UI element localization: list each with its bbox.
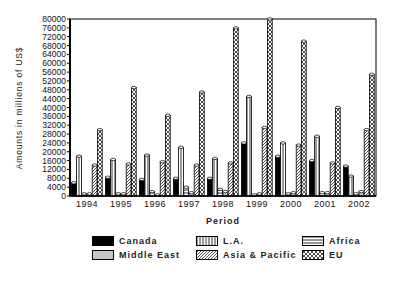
- y-tick-label: 16000: [42, 156, 66, 166]
- bar-asia-pacific-2002: [364, 130, 369, 196]
- legend-item-canada: Canada: [92, 236, 158, 246]
- bar-eu-2002: [369, 74, 374, 196]
- bar-asia-pacific-1994: [92, 165, 97, 196]
- swatch-diagonal-lines-icon: [196, 250, 218, 260]
- x-axis: 199419951996199719981999200020012002: [70, 196, 376, 209]
- y-tick-label: 44000: [42, 94, 66, 104]
- y-tick-label: 76000: [42, 23, 66, 33]
- bar-l-a--2000: [281, 143, 286, 196]
- legend-item-africa: Africa: [302, 236, 361, 246]
- y-tick-label: 80000: [42, 14, 66, 24]
- bar-l-a--2001: [315, 136, 320, 196]
- bar-canada-1996: [139, 179, 144, 196]
- y-tick-label: 32000: [42, 120, 66, 130]
- x-tick-label: 2001: [314, 199, 336, 209]
- x-tick-label: 1994: [76, 199, 98, 209]
- bar-asia-pacific-1997: [194, 165, 199, 196]
- y-tick-label: 60000: [42, 58, 66, 68]
- legend-label: Canada: [119, 236, 158, 246]
- y-tick-label: 36000: [42, 111, 66, 121]
- bar-l-a--1997: [179, 147, 184, 196]
- swatch-vertical-lines-icon: [196, 236, 218, 246]
- plot-area: [70, 18, 376, 196]
- bar-canada-1995: [105, 177, 110, 196]
- swatch-crosshatch-icon: [302, 250, 324, 260]
- bar-l-a--1994: [77, 156, 82, 196]
- bar-canada-1997: [173, 178, 178, 196]
- x-tick-label: 1999: [246, 199, 268, 209]
- bar-asia-pacific-1996: [160, 162, 165, 196]
- x-tick-label: 1995: [110, 199, 132, 209]
- bar-canada-2002: [343, 166, 348, 196]
- bar-asia-pacific-2000: [296, 145, 301, 196]
- y-tick-label: 4000: [47, 182, 66, 192]
- bar-l-a--1998: [213, 158, 218, 196]
- bar-canada-1999: [241, 143, 246, 196]
- x-tick-label: 1997: [178, 199, 200, 209]
- bar-l-a--1996: [145, 155, 150, 196]
- legend-item-la: L.A.: [196, 236, 244, 246]
- legend-label: EU: [329, 250, 344, 260]
- bar-l-a--2002: [349, 176, 354, 196]
- y-tick-label: 56000: [42, 67, 66, 77]
- x-tick-label: 1998: [212, 199, 234, 209]
- legend-label: L.A.: [223, 236, 244, 246]
- bar-canada-1998: [207, 178, 212, 196]
- bar-asia-pacific-1995: [126, 164, 131, 196]
- legend-label: Africa: [329, 236, 361, 246]
- y-tick-label: 40000: [42, 103, 66, 113]
- legend-label: Middle East: [119, 250, 180, 260]
- x-tick-label: 1996: [144, 199, 166, 209]
- bar-asia-pacific-2001: [330, 163, 335, 196]
- y-tick-label: 48000: [42, 85, 66, 95]
- bar-asia-pacific-1998: [228, 163, 233, 196]
- legend-item-eu: EU: [302, 250, 344, 260]
- swatch-solid-icon: [92, 236, 114, 246]
- y-tick-label: 28000: [42, 129, 66, 139]
- bar-eu-1994: [97, 130, 102, 196]
- y-axis-title: Amounts in millions of US$: [14, 47, 24, 169]
- y-tick-label: 8000: [47, 173, 66, 183]
- bar-eu-1999: [267, 19, 272, 196]
- y-tick-label: 12000: [42, 164, 66, 174]
- x-tick-label: 2000: [280, 199, 302, 209]
- bar-l-a--1995: [111, 159, 116, 196]
- bar-l-a--1999: [247, 96, 252, 196]
- y-tick-label: 72000: [42, 32, 66, 42]
- legend-label: Asia & Pacific: [223, 250, 297, 260]
- swatch-gray-icon: [92, 250, 114, 260]
- bar-canada-2000: [275, 156, 280, 196]
- swatch-horizontal-lines-icon: [302, 236, 324, 246]
- y-axis: 0400080001200016000200002400028000320003…: [42, 14, 70, 201]
- bar-eu-1997: [199, 92, 204, 196]
- bar-eu-2000: [301, 41, 306, 196]
- bar-eu-1996: [165, 115, 170, 196]
- y-tick-label: 64000: [42, 49, 66, 59]
- y-tick-label: 0: [61, 191, 66, 201]
- y-tick-label: 52000: [42, 76, 66, 86]
- bar-canada-1994: [71, 183, 76, 196]
- y-tick-label: 20000: [42, 147, 66, 157]
- x-axis-title: Period: [206, 216, 240, 226]
- y-tick-label: 24000: [42, 138, 66, 148]
- bar-canada-2001: [309, 161, 314, 196]
- legend-item-asia-pacific: Asia & Pacific: [196, 250, 297, 260]
- bar-eu-2001: [335, 108, 340, 197]
- bar-eu-1995: [131, 88, 136, 196]
- legend-item-middle-east: Middle East: [92, 250, 180, 260]
- bar-asia-pacific-1999: [262, 127, 267, 196]
- x-tick-label: 2002: [348, 199, 370, 209]
- bar-eu-1998: [233, 28, 238, 196]
- y-tick-label: 68000: [42, 41, 66, 51]
